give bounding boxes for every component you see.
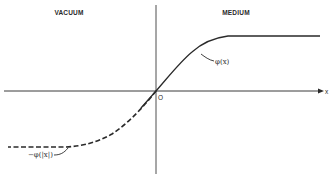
minus-phi-leader-line bbox=[54, 148, 68, 155]
x-axis-arrow-icon bbox=[318, 89, 324, 94]
x-axis-label: x bbox=[325, 88, 329, 95]
curve-minus-phi-abs-dashed bbox=[8, 91, 156, 147]
curve-phi-solid bbox=[141, 36, 320, 108]
region-label-vacuum: VACUUM bbox=[54, 9, 83, 16]
diagram-canvas: VACUUM MEDIUM x O φ(x) −φ(|x|) bbox=[0, 0, 329, 179]
curve-label-minus-phi: −φ(|x|) bbox=[28, 151, 53, 159]
curve-label-phi: φ(x) bbox=[215, 58, 230, 66]
region-label-medium: MEDIUM bbox=[222, 9, 250, 16]
origin-label: O bbox=[158, 94, 163, 101]
phi-leader-line bbox=[201, 54, 214, 61]
